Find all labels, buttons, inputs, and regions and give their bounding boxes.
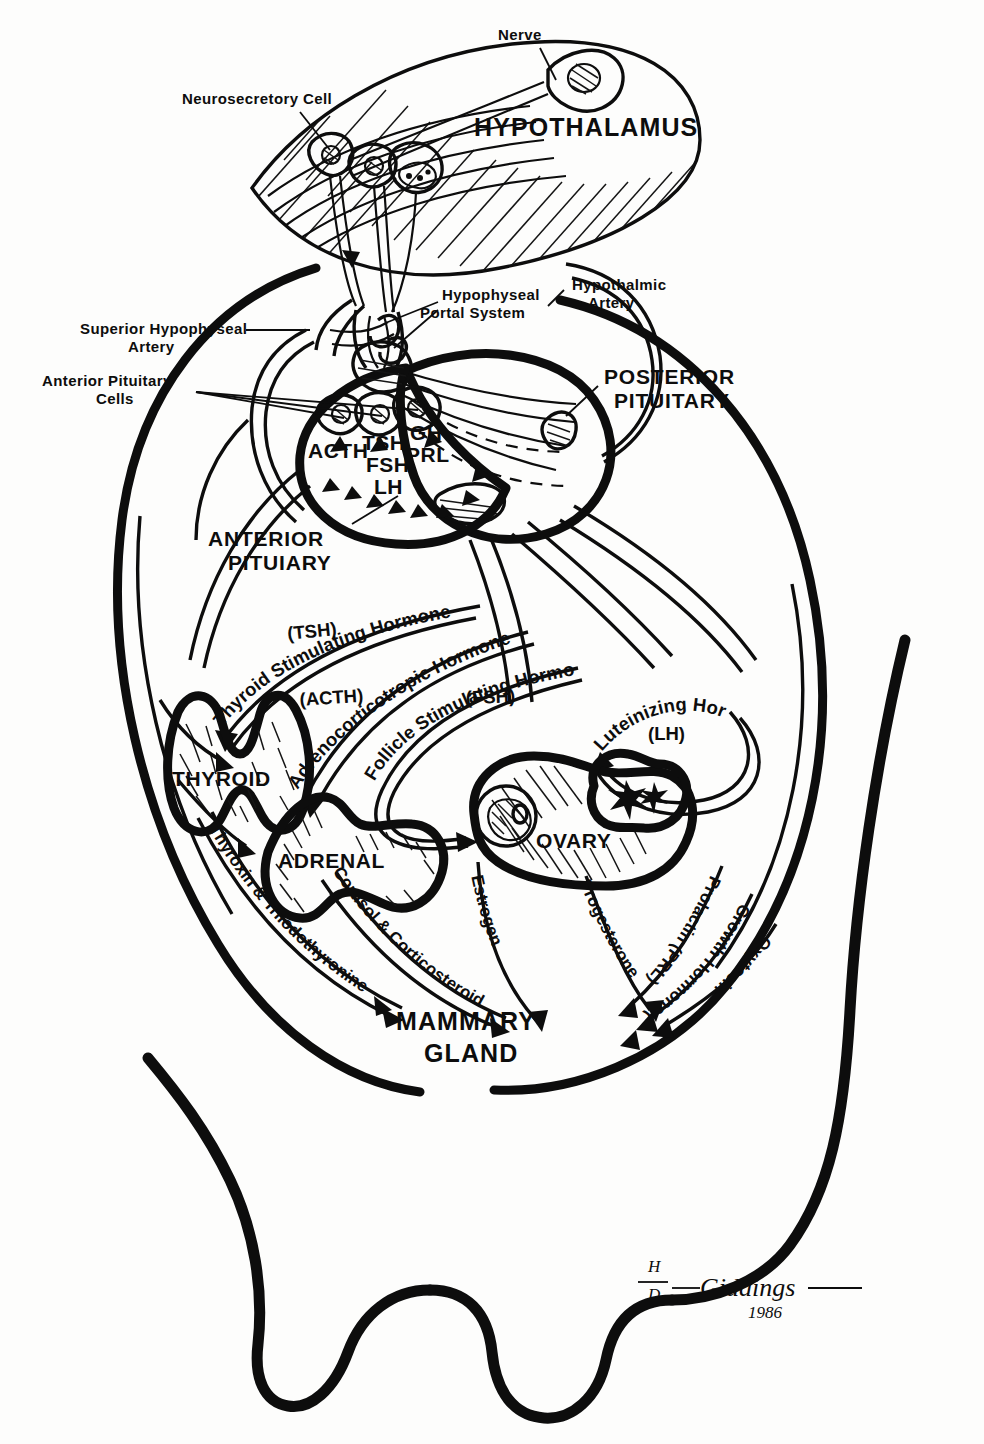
abbr-gh: GH [410,421,443,444]
label-hypothalmic-artery-l2: Artery [588,294,635,311]
signature-year: 1986 [748,1303,783,1322]
label-nerve: Nerve [498,26,542,43]
abbr-prl: PRL [406,443,450,466]
label-hypophyseal-portal-l2: Portal System [420,304,525,321]
title-posterior-pituitary-l2: PITUITARY [614,389,730,412]
signature-monogram-top: H [647,1257,662,1276]
abbr-fsh: FSH [366,453,410,476]
title-anterior-pituitary-l2: PITUIARY [228,551,332,574]
title-anterior-pituitary-l1: ANTERIOR [208,527,324,550]
label-hypophyseal-portal-l1: Hypophyseal [442,286,540,303]
abbr-lh: LH [374,475,403,498]
title-mammary-gland-l2: GLAND [424,1039,518,1067]
label-anterior-pituitary-cells-l2: Cells [96,390,134,407]
organ-label-adrenal: ADRENAL [278,849,385,872]
label-neurosecretory-cell: Neurosecretory Cell [182,90,332,107]
label-hypothalmic-artery-l1: Hypothalmic [572,276,666,293]
abbr-acth: ACTH [308,439,368,462]
abbr-tsh: TSH [362,431,406,454]
paper-background [0,0,984,1444]
label-anterior-pituitary-cells-l1: Anterior Pituitary [42,372,172,389]
label-superior-hypophyseal-artery-l1: Superior Hypophyseal [80,320,247,337]
signature-name: Giddings [700,1273,795,1302]
label-superior-hypophyseal-artery-l2: Artery [128,338,175,355]
title-posterior-pituitary-l1: POSTERIOR [604,365,735,388]
title-hypothalamus: HYPOTHALAMUS [474,113,698,141]
signature-monogram-bottom: D [647,1285,661,1304]
title-mammary-gland-l1: MAMMARY [396,1007,536,1035]
hormone-abbr-fsh: (FSH) [465,685,515,708]
organ-label-ovary: OVARY [536,829,611,852]
hormone-abbr-lh: (LH) [648,723,685,744]
hormone-abbr-acth: (ACTH) [299,685,364,710]
illustration-canvas: THYROID ADRENAL [0,0,984,1444]
endocrine-axis-diagram: THYROID ADRENAL [0,0,984,1444]
